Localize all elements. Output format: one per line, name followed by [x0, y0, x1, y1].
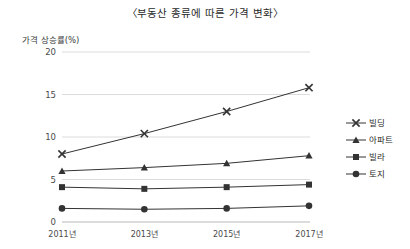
x-axis-ticks: 2011년2013년2015년2017년 — [62, 226, 310, 242]
data-point-circle — [353, 170, 360, 177]
x-tick-label: 2013년 — [131, 228, 158, 239]
legend-label: 아파트 — [367, 133, 393, 145]
legend-item-토지[interactable]: 토지 — [345, 164, 407, 181]
chart-legend: 빌딩아파트빌라토지 — [345, 113, 407, 181]
series-line — [62, 185, 309, 189]
data-point-square — [353, 154, 359, 160]
data-point-x — [223, 108, 230, 115]
chart-container: 〈부동산 종류에 따른 가격 변화〉 가격 상승률(%) 05101520 20… — [0, 0, 410, 249]
y-tick-label: 15 — [30, 90, 56, 100]
data-point-square — [306, 182, 312, 188]
y-tick-label: 0 — [30, 217, 56, 227]
data-point-square — [141, 186, 147, 192]
y-tick-label: 10 — [30, 132, 56, 142]
y-tick-label: 20 — [30, 47, 56, 57]
legend-item-빌딩[interactable]: 빌딩 — [345, 113, 407, 130]
data-point-circle — [59, 205, 66, 212]
plot-area — [62, 52, 310, 222]
chart-title: 〈부동산 종류에 따른 가격 변화〉 — [0, 5, 410, 20]
y-tick-label: 5 — [30, 175, 56, 185]
legend-marker-triangle-icon — [345, 132, 367, 146]
legend-item-아파트[interactable]: 아파트 — [345, 130, 407, 147]
y-axis-label: 가격 상승률(%) — [22, 33, 79, 45]
legend-marker-x-icon — [345, 115, 367, 129]
x-tick-label: 2011년 — [48, 228, 75, 239]
data-point-circle — [141, 206, 148, 213]
series-line — [62, 88, 309, 154]
legend-label: 빌라 — [367, 150, 385, 162]
legend-label: 토지 — [367, 167, 385, 179]
data-point-x — [141, 130, 148, 137]
data-point-square — [59, 184, 65, 190]
data-point-circle — [306, 203, 313, 210]
data-point-circle — [223, 205, 230, 212]
data-point-square — [224, 184, 230, 190]
plot-svg — [62, 52, 310, 222]
data-point-triangle — [305, 152, 312, 158]
legend-marker-square-icon — [345, 149, 367, 163]
legend-marker-circle-icon — [345, 166, 367, 180]
legend-item-빌라[interactable]: 빌라 — [345, 147, 407, 164]
legend-label: 빌딩 — [367, 116, 385, 128]
x-tick-label: 2015년 — [213, 228, 240, 239]
x-tick-label: 2017년 — [295, 228, 322, 239]
series-line — [62, 206, 309, 209]
series-line — [62, 156, 309, 171]
y-axis-ticks: 05101520 — [26, 52, 56, 222]
data-point-x — [305, 84, 312, 91]
data-point-x — [58, 150, 65, 157]
